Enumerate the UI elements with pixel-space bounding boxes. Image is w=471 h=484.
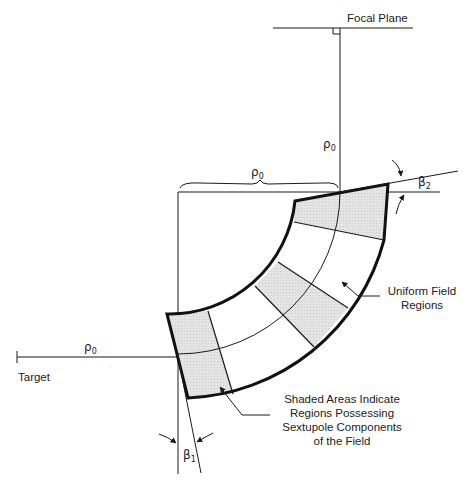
rho-label-brace: ρ0 [251, 165, 264, 184]
rho-label-target: ρ0 [84, 340, 97, 359]
beta2-label: β2 [418, 175, 431, 194]
uniform-field-label: Uniform Field Regions [382, 284, 462, 312]
shaded-areas-label: Shaded Areas Indicate Regions Possessing… [272, 392, 412, 448]
right-angle-marker [333, 28, 340, 34]
target-label: Target [18, 370, 50, 384]
beta1-label: β1 [183, 448, 196, 467]
focal-plane-label: Focal Plane [347, 11, 408, 25]
rho-label-vertical: ρ0 [323, 137, 336, 156]
